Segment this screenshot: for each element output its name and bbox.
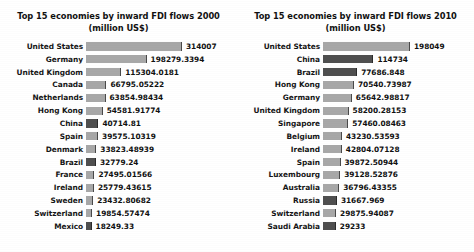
bar-track: 58200.28153 — [323, 104, 474, 117]
bar-category-label: Netherlands — [0, 93, 86, 102]
bar-category-label: Spain — [237, 158, 323, 167]
bar-category-label: Singapore — [237, 119, 323, 128]
bar-row: Singapore57460.08463 — [237, 117, 474, 130]
bar-row: Brazil32779.24 — [0, 156, 237, 169]
bar-value-label: 32779.24 — [96, 158, 138, 167]
bar-track: 32779.24 — [86, 156, 237, 169]
bar-value-label: 114734 — [373, 55, 408, 64]
bar-value-label: 43230.53593 — [342, 132, 400, 141]
bar-category-label: China — [237, 55, 323, 64]
bar-track: 39128.52876 — [323, 168, 474, 181]
bar-row: Sweden23432.80682 — [0, 194, 237, 207]
bar-rows-2010: United States198049China114734Brazil7768… — [237, 40, 474, 233]
bar-value-label: 36796.43355 — [339, 183, 397, 192]
bar-track: 29233 — [323, 220, 474, 233]
bar-category-label: Ireland — [237, 145, 323, 154]
bar-category-label: United States — [0, 42, 86, 51]
bar — [323, 209, 336, 217]
bar-row: Luxembourg39128.52876 — [237, 168, 474, 181]
bar-category-label: Spain — [0, 132, 86, 141]
bar-row: Ireland42804.07128 — [237, 143, 474, 156]
bar — [323, 81, 354, 89]
bar-category-label: Australia — [237, 183, 323, 192]
bar-track: 27495.01566 — [86, 168, 237, 181]
bar-track: 29875.94087 — [323, 207, 474, 220]
bar-category-label: Sweden — [0, 196, 86, 205]
bar — [323, 94, 352, 102]
bar-value-label: 57460.08463 — [348, 119, 406, 128]
bar-value-label: 70540.73987 — [354, 80, 412, 89]
bar-category-label: Ireland — [0, 183, 86, 192]
bar-category-label: Belgium — [237, 132, 323, 141]
chart-panel-2010: Top 15 economies by inward FDI flows 201… — [237, 0, 474, 252]
bar-value-label: 39575.10319 — [98, 132, 156, 141]
bar-row: Canada66795.05222 — [0, 79, 237, 92]
bar-value-label: 33823.48939 — [96, 145, 154, 154]
bar-track: 39575.10319 — [86, 130, 237, 143]
bar-category-label: Saudi Arabia — [237, 222, 323, 231]
bar-value-label: 54581.91774 — [103, 106, 161, 115]
bar-row: United States198049 — [237, 40, 474, 53]
bar — [86, 55, 147, 63]
bar — [86, 94, 106, 102]
bar-category-label: Switzerland — [237, 209, 323, 218]
bar-category-label: United Kingdom — [237, 106, 323, 115]
bar-value-label: 198279.3394 — [147, 55, 205, 64]
bar-row: Ireland25779.43615 — [0, 181, 237, 194]
chart-title-line1: Top 15 economies by inward FDI flows 201… — [254, 11, 457, 21]
chart-title-2010: Top 15 economies by inward FDI flows 201… — [237, 0, 474, 34]
bar — [86, 184, 94, 192]
bar — [86, 107, 103, 115]
bar-track: 19854.57474 — [86, 207, 237, 220]
bar-row: Germany198279.3394 — [0, 53, 237, 66]
bar-value-label: 29875.94087 — [336, 209, 394, 218]
bar-category-label: Mexico — [0, 222, 86, 231]
bar-row: Russia31667.969 — [237, 194, 474, 207]
bar — [323, 171, 340, 179]
bar-category-label: Russia — [237, 196, 323, 205]
bar-value-label: 39872.50944 — [341, 158, 399, 167]
bar-row: Belgium43230.53593 — [237, 130, 474, 143]
bar-row: United Kingdom115304.0181 — [0, 66, 237, 79]
bar-row: Mexico18249.33 — [0, 220, 237, 233]
chart-title-line1: Top 15 economies by inward FDI flows 200… — [17, 11, 220, 21]
bar — [323, 222, 336, 230]
bar-category-label: Brazil — [237, 68, 323, 77]
bar-row: Netherlands63854.98434 — [0, 91, 237, 104]
bar-track: 40714.81 — [86, 117, 237, 130]
bar-track: 54581.91774 — [86, 104, 237, 117]
bar — [323, 158, 341, 166]
bar — [86, 171, 94, 179]
bar — [86, 68, 121, 76]
bar-row: Australia36796.43355 — [237, 181, 474, 194]
bar-rows-2000: United States314007Germany198279.3394Uni… — [0, 40, 237, 233]
bar-row: Spain39872.50944 — [237, 156, 474, 169]
bar — [86, 158, 96, 166]
bar-value-label: 29233 — [336, 222, 365, 231]
bar — [86, 196, 93, 204]
bar-track: 314007 — [86, 40, 237, 53]
bar — [86, 119, 98, 127]
bar-row: Switzerland19854.57474 — [0, 207, 237, 220]
bar-value-label: 18249.33 — [92, 222, 134, 231]
bar-category-label: Hong Kong — [0, 106, 86, 115]
bar-track: 39872.50944 — [323, 156, 474, 169]
bar — [86, 42, 182, 50]
bar — [323, 68, 357, 76]
bar-value-label: 77686.848 — [357, 68, 405, 77]
bar-track: 31667.969 — [323, 194, 474, 207]
bar-category-label: Luxembourg — [237, 170, 323, 179]
bar-track: 114734 — [323, 53, 474, 66]
bar-track: 57460.08463 — [323, 117, 474, 130]
bar-value-label: 25779.43615 — [94, 183, 152, 192]
bar-row: China114734 — [237, 53, 474, 66]
chart-title-2000: Top 15 economies by inward FDI flows 200… — [0, 0, 237, 34]
bar-category-label: Brazil — [0, 158, 86, 167]
bar — [323, 107, 349, 115]
bar-row: Spain39575.10319 — [0, 130, 237, 143]
bar — [323, 55, 373, 63]
bar-track: 36796.43355 — [323, 181, 474, 194]
bar — [323, 119, 348, 127]
bar-row: United Kingdom58200.28153 — [237, 104, 474, 117]
bar-track: 42804.07128 — [323, 143, 474, 156]
